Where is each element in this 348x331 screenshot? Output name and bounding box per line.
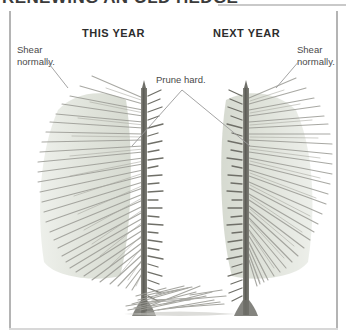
- leader-line-center-left: [132, 90, 182, 146]
- trunk-tip-right: [244, 80, 248, 88]
- shrub-next-year: [221, 78, 332, 316]
- trunk-this-year: [141, 88, 147, 315]
- trunk-next-year: [243, 88, 249, 315]
- shrub-this-year: [38, 76, 163, 316]
- twig-stubs-right: [148, 90, 163, 301]
- trunk-base-flare-right: [234, 300, 258, 316]
- hedge-illustration: [0, 0, 348, 331]
- hedge-renewal-figure: RENEWING AN OLD HEDGE THIS YEAR NEXT YEA…: [0, 0, 348, 331]
- leader-line-right: [276, 60, 300, 88]
- trunk-tip-left: [142, 80, 146, 88]
- leader-line-left: [46, 60, 68, 88]
